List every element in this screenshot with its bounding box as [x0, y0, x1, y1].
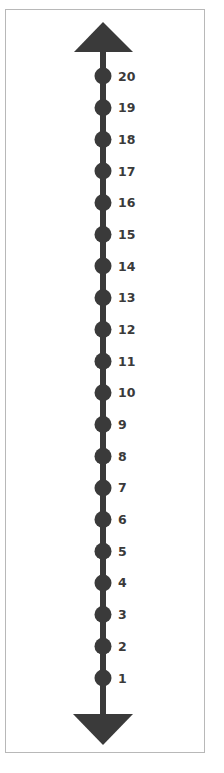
tick-label: 19	[118, 100, 135, 115]
tick-label: 10	[118, 385, 136, 400]
tick-dot	[95, 321, 112, 338]
tick-dot	[95, 606, 112, 623]
tick-dot	[95, 226, 112, 243]
tick-dot	[95, 131, 112, 148]
down-arrow-icon	[73, 714, 133, 745]
tick-dot	[95, 258, 112, 275]
tick-dot	[95, 670, 112, 687]
tick-label: 4	[118, 575, 127, 590]
up-arrow-icon	[74, 22, 133, 52]
tick-dot	[95, 638, 112, 655]
tick-label: 2	[118, 639, 127, 654]
tick-label: 12	[118, 322, 135, 337]
tick-label: 17	[118, 164, 135, 179]
tick-label: 1	[118, 671, 127, 686]
tick-dot	[95, 353, 112, 370]
tick-label: 15	[118, 227, 135, 242]
tick-label: 18	[118, 132, 135, 147]
tick-dot	[95, 543, 112, 560]
tick-dot	[95, 479, 112, 496]
tick-label: 16	[118, 195, 136, 210]
tick-label: 5	[118, 544, 127, 559]
tick-dot	[95, 289, 112, 306]
tick-label: 8	[118, 449, 127, 464]
vertical-number-line: 2019181716151413121110987654321	[0, 0, 224, 773]
tick-dot	[95, 416, 112, 433]
tick-dot	[95, 574, 112, 591]
tick-label: 13	[118, 290, 135, 305]
tick-dot	[95, 448, 112, 465]
tick-label: 6	[118, 512, 127, 527]
tick-dot	[95, 194, 112, 211]
tick-dot	[95, 511, 112, 528]
tick-label: 20	[118, 69, 136, 84]
tick-dot	[95, 384, 112, 401]
tick-dot	[95, 163, 112, 180]
tick-dot	[95, 99, 112, 116]
tick-label: 14	[118, 259, 136, 274]
tick-label: 7	[118, 480, 127, 495]
tick-label: 11	[118, 354, 135, 369]
tick-label: 3	[118, 607, 127, 622]
tick-label: 9	[118, 417, 127, 432]
tick-dot	[95, 68, 112, 85]
